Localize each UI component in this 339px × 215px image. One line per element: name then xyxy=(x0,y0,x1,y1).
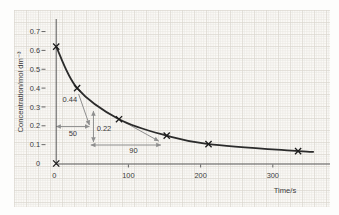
y-tick-label: 0.2 xyxy=(30,121,40,130)
graph-paper xyxy=(14,10,330,207)
concentration-time-graph: 0.70.60.50.40.30.20.100100200300 0.440.2… xyxy=(0,0,339,215)
y-tick-label: 0.1 xyxy=(30,140,40,149)
x-tick-label: 100 xyxy=(122,171,134,180)
y-tick-label: 0.6 xyxy=(30,46,40,55)
annotation-90: 90 xyxy=(129,146,137,155)
x-tick-label: 200 xyxy=(194,171,206,180)
y-tick-label: 0.7 xyxy=(30,27,40,36)
y-tick-label: 0.5 xyxy=(30,65,40,74)
x-tick-label: 0 xyxy=(52,171,56,180)
figure: 0.70.60.50.40.30.20.100100200300 0.440.2… xyxy=(0,0,339,215)
y-axis-label: Concentration/mol dm⁻³ xyxy=(16,51,25,132)
x-axis-label: Time/s xyxy=(274,186,297,195)
y-tick-label: 0.4 xyxy=(30,84,40,93)
annotation-044: 0.44 xyxy=(63,95,78,104)
y-tick-label: 0.3 xyxy=(30,103,40,112)
y-tick-label: 0 xyxy=(36,159,40,168)
annotation-50: 50 xyxy=(69,129,77,138)
x-tick-label: 300 xyxy=(267,171,279,180)
annotation-022: 0.22 xyxy=(97,124,112,133)
